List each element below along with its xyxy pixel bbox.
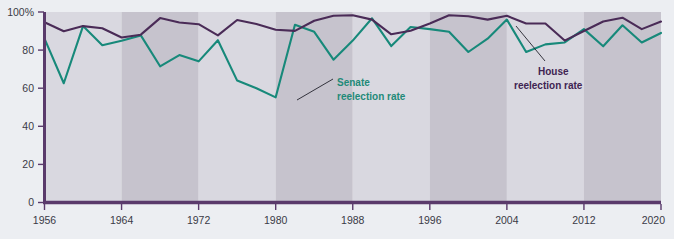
chart-container: 020406080100% 19561964197219801988199620… xyxy=(0,0,674,239)
background-band-1980-1988 xyxy=(276,12,353,203)
x-tick-label-2012: 2012 xyxy=(572,214,596,226)
x-tick-label-1956: 1956 xyxy=(33,214,57,226)
x-tick-label-1988: 1988 xyxy=(341,214,365,226)
background-band-1956-1964 xyxy=(45,12,122,203)
background-band-1964-1972 xyxy=(122,12,199,203)
background-band-1972-1980 xyxy=(199,12,276,203)
y-tick-label-60: 60 xyxy=(22,82,34,94)
senate-annotation-line2: reelection rate xyxy=(337,91,406,102)
y-tick-label-100: 100% xyxy=(7,6,34,18)
house-annotation-line2: reelection rate xyxy=(514,80,583,91)
x-tick-label-2004: 2004 xyxy=(495,214,519,226)
reelection-rate-line-chart: 020406080100% 19561964197219801988199620… xyxy=(0,0,674,239)
x-tick-label-1980: 1980 xyxy=(264,214,288,226)
y-tick-label-80: 80 xyxy=(22,44,34,56)
x-tick-label-1964: 1964 xyxy=(110,214,134,226)
x-tick-label-2020: 2020 xyxy=(642,214,666,226)
y-tick-label-40: 40 xyxy=(22,120,34,132)
background-band-1996-2004 xyxy=(430,12,507,203)
senate-annotation-line1: Senate xyxy=(337,77,370,88)
y-tick-label-20: 20 xyxy=(22,158,34,170)
background-band-1988-1996 xyxy=(353,12,430,203)
x-tick-label-1972: 1972 xyxy=(187,214,211,226)
house-annotation-line1: House xyxy=(538,66,569,77)
y-tick-label-0: 0 xyxy=(28,196,34,208)
x-tick-label-1996: 1996 xyxy=(418,214,442,226)
